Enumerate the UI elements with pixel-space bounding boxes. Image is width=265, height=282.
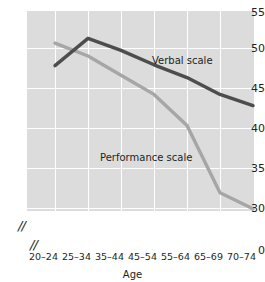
axis-break-y-icon: // — [18, 219, 25, 232]
line-chart: Verbal scale Performance scale 55 50 45 … — [0, 0, 265, 282]
ytick-label-55: 55 — [241, 7, 265, 18]
series-label-performance: Performance scale — [100, 152, 192, 163]
series-label-verbal: Verbal scale — [152, 55, 213, 66]
xtick-label-25-34: 25–34 — [60, 252, 93, 262]
ytick-label-45: 45 — [241, 83, 265, 94]
xtick-label-45-54: 45–54 — [126, 252, 159, 262]
ytick-label-30: 30 — [241, 203, 265, 214]
ytick-label-50: 50 — [241, 43, 265, 54]
xtick-label-55-64: 55–64 — [159, 252, 192, 262]
xtick-label-65-69: 65–69 — [192, 252, 225, 262]
axis-break-x-icon: // — [30, 238, 37, 251]
ytick-label-35: 35 — [241, 163, 265, 174]
xtick-label-20-24: 20–24 — [27, 252, 60, 262]
x-axis-title: Age — [0, 269, 265, 280]
series-line-performance — [55, 43, 253, 209]
xtick-label-35-44: 35–44 — [93, 252, 126, 262]
plot-area: Verbal scale Performance scale — [27, 11, 254, 211]
series-lines — [27, 11, 254, 211]
ytick-label-40: 40 — [241, 123, 265, 134]
xtick-label-70-74: 70–74 — [225, 252, 258, 262]
